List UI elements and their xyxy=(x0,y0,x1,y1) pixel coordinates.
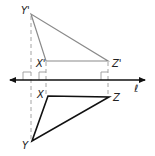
right-angle-mark-x xyxy=(39,72,46,80)
right-angle-marks xyxy=(23,72,108,80)
label-z-prime: Z' xyxy=(111,58,122,69)
reflection-diagram: Y' X' Z' ℓ X Z Y xyxy=(0,0,155,156)
dashed-perpendiculars xyxy=(31,16,108,140)
label-y: Y xyxy=(22,140,29,151)
preimage-triangle xyxy=(32,96,109,141)
label-z: Z xyxy=(112,92,121,103)
right-angle-mark-y xyxy=(23,72,31,80)
label-x: X xyxy=(36,89,45,100)
label-y-prime: Y' xyxy=(21,5,30,16)
image-triangle xyxy=(31,14,108,61)
label-x-prime: X' xyxy=(35,58,46,69)
right-angle-mark-z xyxy=(101,72,108,80)
label-line: ℓ xyxy=(134,83,138,94)
